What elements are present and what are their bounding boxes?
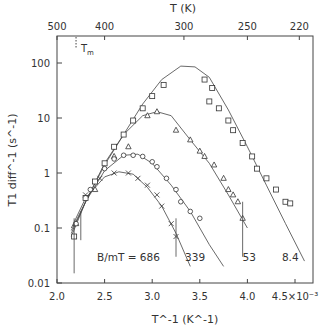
fit-curve xyxy=(71,112,247,234)
data-point xyxy=(207,99,212,104)
field-label: B/mT = 686 xyxy=(97,251,160,263)
fit-curve xyxy=(71,154,223,266)
x-axis-ticks: 2.02.53.03.54.04.5×10⁻³ xyxy=(49,279,318,302)
data-point xyxy=(93,179,98,184)
data-point xyxy=(126,144,131,149)
data-point xyxy=(221,175,226,180)
y-tick-label: 0.01 xyxy=(28,278,50,289)
data-point xyxy=(288,201,293,206)
data-point xyxy=(202,77,207,82)
top-axis-ticks: 500400300250220 xyxy=(47,21,308,40)
top-tick-label: 400 xyxy=(95,21,114,32)
annotations: TmB/mT = 686339538.4 xyxy=(76,37,299,263)
data-point xyxy=(121,153,126,158)
data-point xyxy=(250,154,255,159)
data-point xyxy=(140,106,145,111)
data-point xyxy=(254,166,259,171)
x-tick-label: 2.5 xyxy=(97,291,113,302)
data-point xyxy=(226,187,231,192)
data-point xyxy=(240,141,245,146)
data-point xyxy=(202,153,207,158)
data-point xyxy=(264,176,269,181)
data-point xyxy=(88,187,93,192)
data-point xyxy=(154,192,159,197)
data-point xyxy=(135,176,140,181)
data-point xyxy=(102,166,107,171)
data-point xyxy=(173,127,178,132)
y-tick-label: 100 xyxy=(31,58,50,69)
data-point xyxy=(198,216,203,221)
data-point xyxy=(174,187,179,192)
tm-subscript: m xyxy=(87,49,94,57)
data-point xyxy=(283,199,288,204)
plot-frame xyxy=(57,36,313,283)
data-point xyxy=(216,106,221,111)
fit-curves xyxy=(71,66,304,266)
data-point xyxy=(112,157,117,162)
data-point xyxy=(140,154,145,159)
data-point xyxy=(235,199,240,204)
data-point xyxy=(273,187,278,192)
data-point xyxy=(188,209,193,214)
data-point xyxy=(230,192,235,197)
data-point xyxy=(161,82,166,87)
y-tick-label: 1 xyxy=(44,168,50,179)
field-label: 339 xyxy=(185,251,205,263)
data-point xyxy=(154,109,159,114)
data-point xyxy=(150,94,155,99)
data-point xyxy=(121,132,126,137)
data-point xyxy=(231,128,236,133)
data-point xyxy=(211,162,216,167)
top-tick-label: 300 xyxy=(174,21,193,32)
y-tick-label: 10 xyxy=(37,113,50,124)
chart: 2.02.53.03.54.04.5×10⁻³ 0.010.1110100 50… xyxy=(0,0,332,331)
x-tick-label: 3.0 xyxy=(144,291,160,302)
y-tick-label: 0.1 xyxy=(34,223,50,234)
data-point xyxy=(210,86,215,91)
data-point xyxy=(164,176,169,181)
data-point xyxy=(155,164,160,169)
data-point xyxy=(226,118,231,123)
x-tick-label: 4.5×10⁻³ xyxy=(272,291,318,302)
x-tick-label: 4.0 xyxy=(239,291,255,302)
data-point xyxy=(159,204,164,209)
data-point xyxy=(150,159,155,164)
top-axis-label: T (K) xyxy=(169,2,196,15)
data-point xyxy=(102,161,107,166)
top-tick-label: 250 xyxy=(238,21,257,32)
data-points xyxy=(72,77,293,273)
top-tick-label: 500 xyxy=(47,21,66,32)
data-point xyxy=(169,221,174,226)
data-point xyxy=(131,153,136,158)
field-label: 53 xyxy=(243,251,256,263)
top-tick-label: 220 xyxy=(290,21,309,32)
x-tick-label: 3.5 xyxy=(192,291,208,302)
data-point xyxy=(131,118,136,123)
data-point xyxy=(178,199,183,204)
x-axis-label: T^-1 (K^-1) xyxy=(151,313,218,326)
x-tick-label: 2.0 xyxy=(49,291,65,302)
y-axis-label: T1 diff^-1 (s^-1) xyxy=(6,113,19,207)
data-point xyxy=(112,144,117,149)
field-label: 8.4 xyxy=(282,251,299,263)
